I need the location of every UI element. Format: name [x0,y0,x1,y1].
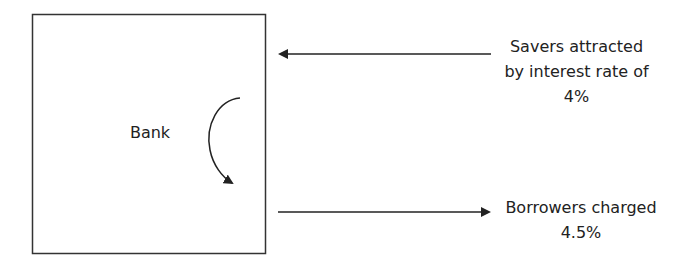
savers-line-2: by interest rate of [494,59,659,84]
borrowers-label: Borrowers charged 4.5% [496,195,666,245]
savers-line-1: Savers attracted [494,34,659,59]
savers-label: Savers attracted by interest rate of 4% [494,34,659,109]
savers-line-3: 4% [494,84,659,109]
borrowers-line-2: 4.5% [496,220,666,245]
borrowers-line-1: Borrowers charged [496,195,666,220]
bank-label: Bank [110,120,190,145]
